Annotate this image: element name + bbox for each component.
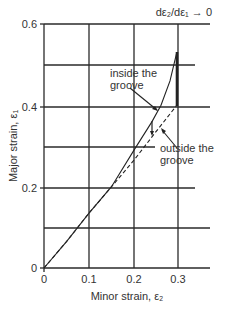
xtick-0: 0 [41,273,47,285]
xtick-0.3: 0.3 [170,273,185,285]
top-annotation: dε₂/dε₁ → 0 [156,6,212,18]
inside-label-line2: groove [110,79,144,91]
x-axis-label: Minor strain, ε₂ [91,290,164,302]
inside-label-line1: inside the [110,67,157,79]
strain-chart: 0.6 0.4 0.2 0 0 0.1 0.2 0.3 Minor strain… [0,0,225,310]
xtick-0.1: 0.1 [81,273,96,285]
ytick-0.4: 0.4 [22,101,37,113]
ytick-0: 0 [31,262,37,274]
outside-label-line2: groove [160,154,194,166]
xtick-0.2: 0.2 [126,273,141,285]
ytick-0.2: 0.2 [22,182,37,194]
ytick-0.6: 0.6 [22,18,37,30]
y-axis-label: Major strain, ε₁ [7,110,19,182]
outside-label-line1: outside the [160,142,214,154]
series-outside-groove [44,105,177,268]
